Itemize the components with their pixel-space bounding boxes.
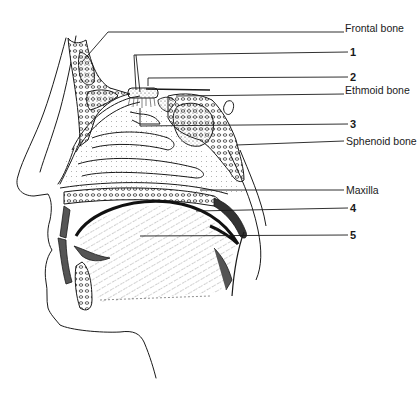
label-2: 2 [350,71,356,83]
label-4: 4 [350,202,356,214]
label-5: 5 [350,229,356,241]
label-1: 1 [350,46,356,58]
leader-sphenoid-bone [236,141,344,145]
lower-incisor [58,238,72,284]
upper-lip-tooth [60,206,70,238]
leader-frontal-bone [82,32,344,62]
label-sphenoid-bone: Sphenoid bone [346,135,417,147]
label-ethmoid-bone: Ethmoid bone [345,84,410,96]
label-frontal-bone: Frontal bone [345,22,404,34]
leader-2 [148,77,348,86]
tongue [78,206,236,302]
leader-1 [134,52,348,92]
label-maxilla: Maxilla [346,184,379,196]
leader-ethmoid-bone [176,94,344,96]
label-3: 3 [350,118,356,130]
